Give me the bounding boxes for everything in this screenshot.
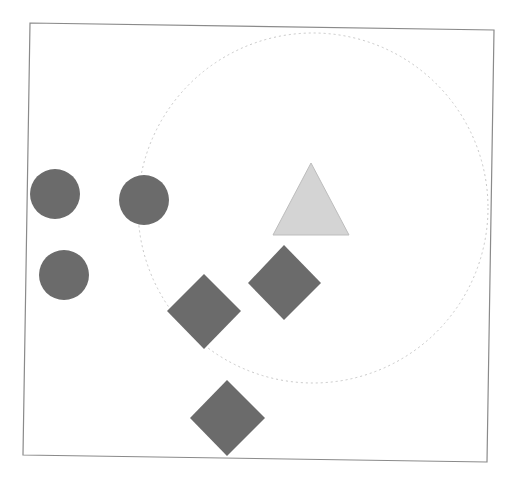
circle-shape-3 <box>39 250 89 300</box>
triangle-shape <box>273 163 349 235</box>
circle-shape-2 <box>119 175 169 225</box>
frame-border <box>23 23 494 462</box>
diamond-group <box>167 245 321 456</box>
circle-group <box>30 169 169 300</box>
diamond-shape-3 <box>190 380 265 456</box>
diagram-canvas <box>0 0 512 482</box>
diamond-shape-1 <box>248 245 321 320</box>
circle-shape-1 <box>30 169 80 219</box>
diamond-shape-2 <box>167 274 241 349</box>
